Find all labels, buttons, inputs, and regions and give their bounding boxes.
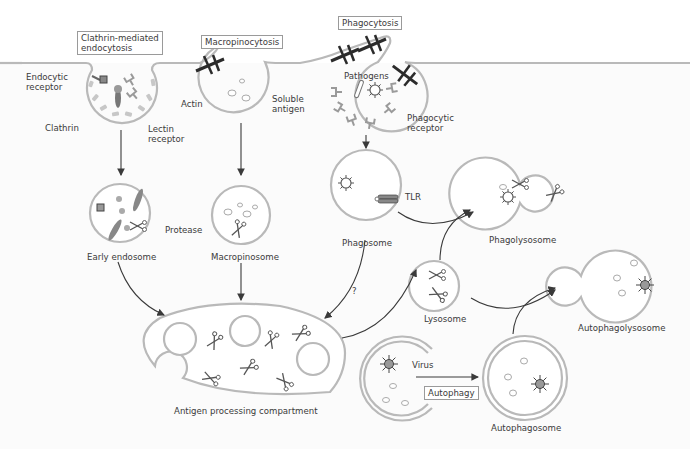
protease-label: Protease	[165, 225, 202, 235]
phagocytic-label-line2: receptor	[407, 123, 454, 133]
phagocytic-label-line1: Phagocytic	[407, 113, 454, 123]
macropinosome-label: Macropinosome	[211, 252, 279, 262]
diagram-canvas	[0, 0, 690, 449]
lectin-label-line2: receptor	[148, 134, 184, 144]
lectin-label-line1: Lectin	[148, 124, 184, 134]
autophagy-title: Autophagy	[424, 386, 479, 400]
question-mark-label: ?	[352, 286, 357, 296]
soluble-antigen-label: Soluble antigen	[272, 94, 305, 114]
clathrin-title-line2: endocytosis	[81, 43, 159, 53]
autophagosome	[483, 336, 567, 420]
autophagolysosome-label: Autophagolysosome	[578, 323, 665, 333]
macropinosome	[212, 186, 270, 244]
soluble-label-line1: Soluble	[272, 94, 305, 104]
actin-label: Actin	[181, 99, 203, 109]
virus-label: Virus	[412, 360, 434, 370]
phagolysosome-label: Phagolysosome	[489, 235, 556, 245]
lectin-receptor-label: Lectin receptor	[148, 124, 184, 144]
clathrin-label: Clathrin	[45, 123, 79, 133]
phagocytosis-title: Phagocytosis	[338, 16, 402, 30]
antigen-uptake-diagram: Clathrin-mediated endocytosis Macropinoc…	[0, 0, 690, 449]
endocytic-receptor-label: Endocytic receptor	[26, 72, 68, 92]
phagosome-label: Phagosome	[342, 238, 392, 248]
endocytic-label-line1: Endocytic	[26, 72, 68, 82]
clathrin-endocytosis-title: Clathrin-mediated endocytosis	[77, 31, 163, 55]
tlr-label: TLR	[405, 192, 421, 202]
clathrin-title-line1: Clathrin-mediated	[81, 33, 159, 43]
endocytic-label-line2: receptor	[26, 82, 68, 92]
lysosome-label: Lysosome	[424, 314, 466, 324]
early-endosome-label: Early endosome	[87, 252, 156, 262]
macropinocytosis-title: Macropinocytosis	[201, 35, 283, 49]
pathogens-label: Pathogens	[344, 71, 389, 81]
lysosome	[409, 261, 459, 311]
tlr-icon	[375, 195, 398, 203]
soluble-label-line2: antigen	[272, 104, 305, 114]
apc-label: Antigen processing compartment	[174, 406, 318, 416]
autophagosome-label: Autophagosome	[491, 423, 561, 433]
phagocytic-receptor-label: Phagocytic receptor	[407, 113, 454, 133]
